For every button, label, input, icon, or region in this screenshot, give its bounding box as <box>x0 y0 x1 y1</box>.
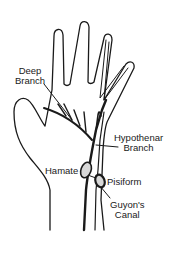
label-deep-branch: Deep Branch <box>15 66 45 86</box>
pisiform-bone <box>94 173 107 188</box>
label-hypothenar-branch: Hypothenar Branch <box>114 133 163 153</box>
label-hamate: Hamate <box>45 166 78 176</box>
label-guyons-canal: Guyon's Canal <box>110 200 145 220</box>
hand-diagram <box>0 0 173 257</box>
label-pisiform: Pisiform <box>107 177 141 187</box>
